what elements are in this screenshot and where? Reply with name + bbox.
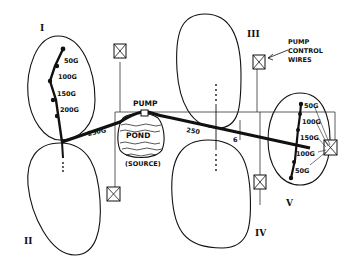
zone-I-valve-100: 100G xyxy=(58,73,77,81)
wires-label-line2: CONTROL xyxy=(288,47,323,55)
pond-caption: (SOURCE) xyxy=(125,160,161,168)
pump-box xyxy=(141,110,148,116)
zone-V-valve-50-top: 50G xyxy=(304,102,318,110)
pump-label: PUMP xyxy=(133,99,158,108)
control-box-3 xyxy=(253,55,265,69)
pipe-label-250: 250 xyxy=(186,126,201,136)
zone-III-label: III xyxy=(247,29,260,39)
wires-label-line1: PUMP xyxy=(288,38,310,46)
irrigation-zone-diagram: I II III IV V PUMP POND (SOURCE) PUMP CO… xyxy=(0,0,355,275)
wires-label-line3: WIRES xyxy=(288,56,312,64)
zone-III-outline xyxy=(177,14,241,128)
zone-II-label: II xyxy=(24,236,32,246)
zone-V-label: V xyxy=(285,198,294,208)
pond-label: POND xyxy=(126,131,150,140)
zone-I-valve-150: 150G xyxy=(57,90,76,98)
pipe-label-250G: 250G xyxy=(87,126,107,138)
control-box-1 xyxy=(114,44,126,58)
zone-II-dotted-line xyxy=(62,142,64,172)
wires-pointer-arrow xyxy=(268,50,288,58)
zone-I-valve-200: 200G xyxy=(60,106,79,114)
control-box-2 xyxy=(107,187,120,201)
zone-V-valve-100-top: 100G xyxy=(302,118,321,126)
zone-V-valve-100-bottom: 100G xyxy=(296,150,315,158)
zone-IV-outline xyxy=(172,140,251,248)
pipe-label-6: 6 xyxy=(233,136,238,144)
zone-V-valve-150: 150G xyxy=(300,134,319,142)
zone-I-label: I xyxy=(40,23,44,33)
control-box-4 xyxy=(254,175,266,189)
zone-IV-label: IV xyxy=(255,228,267,238)
zone-I-valve-50: 50G xyxy=(64,57,78,65)
zone-V-valve-50-bottom: 50G xyxy=(295,167,309,175)
zone-II-outline xyxy=(28,143,101,255)
